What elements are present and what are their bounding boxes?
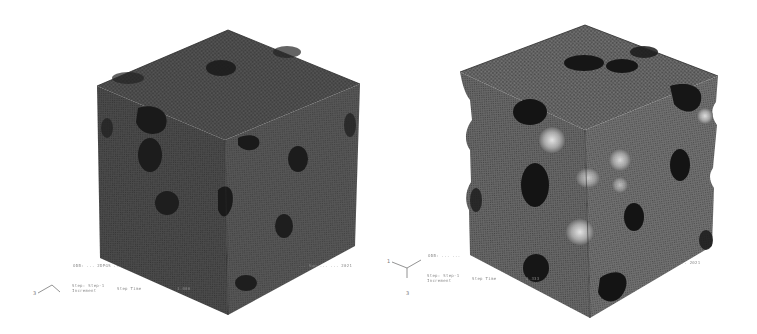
status-line-1-left: ODB: ... 2DPGS ... xyxy=(73,263,122,268)
triad-axis-label: 1 xyxy=(387,258,390,264)
status-line-1-left: ODB: ... ... xyxy=(428,253,461,258)
status-step-time: Step Time xyxy=(117,286,141,291)
status-time-value: 0.333 xyxy=(526,276,540,281)
axis-triad-icon xyxy=(392,260,421,278)
status-increment: Increment xyxy=(72,288,96,293)
triad-axis-label: 3 xyxy=(33,290,36,296)
status-step-time: Step Time xyxy=(472,276,496,281)
deformed-cube-panel: 1 3 ODB: ... ... ... ... 2021 Step: Step… xyxy=(378,0,757,334)
status-time-value: 1.000 xyxy=(177,286,191,291)
deformed-cube-mesh xyxy=(378,0,757,334)
status-increment: Increment xyxy=(427,278,451,283)
triad-axis-label: 3 xyxy=(406,290,409,296)
status-line-1-right: ... ... 2021 xyxy=(668,260,701,265)
axis-triad-icon xyxy=(38,285,60,293)
undeformed-cube-mesh xyxy=(0,0,378,334)
undeformed-cube-panel: 3 ODB: ... 2DPGS ... ... Sun ... ... 202… xyxy=(0,0,378,334)
status-line-1-right: ... Sun ... ... 2021 xyxy=(298,263,352,268)
